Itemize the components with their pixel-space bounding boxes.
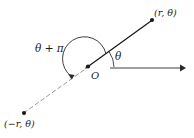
theta-plus-pi-arc-arrowhead (68, 74, 74, 80)
label-theta: θ (115, 51, 121, 62)
theta-arc (109, 52, 114, 67)
label-theta-plus-pi: θ + π (35, 43, 64, 54)
polar-axis-arrowhead (180, 65, 186, 72)
origin-dot (86, 64, 90, 68)
opposite-ray-dashed (25, 70, 84, 112)
theta-plus-pi-arc (63, 37, 106, 77)
point-r-dot (150, 18, 154, 22)
polar-coordinate-diagram: (r, θ) (−r, θ) θ + π θ O (0, 0, 194, 138)
label-point-neg-r: (−r, θ) (4, 119, 35, 129)
point-neg-r-dot (22, 111, 26, 115)
label-origin: O (91, 71, 99, 81)
label-point-r: (r, θ) (154, 8, 177, 18)
